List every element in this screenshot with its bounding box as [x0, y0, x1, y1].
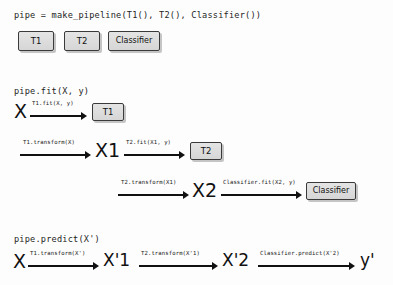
- fit-row3-arrow-1-label: T2.transform(X1): [121, 180, 176, 186]
- fit-row3-mid-symbol: X2: [192, 181, 217, 200]
- fit-heading: pipe.fit(X, y): [14, 86, 89, 96]
- fit-row3-arrow-1: [118, 190, 190, 199]
- fit-row3-target-box-label: Classifier: [313, 187, 350, 195]
- fit-row3-arrow-2-label: Classifier.fit(X2, y): [223, 180, 296, 186]
- fit-row1-arrow: [30, 111, 88, 120]
- predict-result-symbol-1: X'1: [103, 252, 130, 269]
- fit-row1-target-box: T1: [92, 103, 124, 121]
- predict-arrow-1-label: T1.transform(X'): [30, 251, 85, 257]
- pipeline-heading: pipe = make_pipeline(T1(), T2(), Classif…: [14, 10, 261, 20]
- predict-arrow-2: [139, 261, 219, 270]
- figure-canvas: pipe = make_pipeline(T1(), T2(), Classif…: [0, 0, 393, 285]
- fit-row1-target-box-label: T1: [103, 108, 114, 117]
- predict-arrow-1: [28, 261, 100, 270]
- fit-row2-mid-symbol: X1: [95, 141, 120, 160]
- predict-arrow-3-label: Classifier.predict(X'2): [260, 251, 340, 257]
- pipeline-box-classifier: Classifier: [108, 31, 160, 51]
- predict-input-symbol: X: [13, 252, 26, 271]
- pipeline-box-t1: T1: [18, 31, 54, 51]
- pipeline-box-t2-label: T2: [77, 37, 88, 46]
- predict-arrow-3: [258, 261, 356, 270]
- fit-row1-input-symbol: X: [14, 102, 27, 121]
- fit-row2-arrow-2: [124, 150, 186, 159]
- fit-row3-target-box: Classifier: [306, 182, 356, 200]
- fit-row2-arrow-1: [20, 150, 92, 159]
- predict-result-symbol-2: X'2: [222, 252, 249, 269]
- predict-arrow-2-label: T2.transform(X'1): [141, 251, 200, 257]
- pipeline-box-t1-label: T1: [31, 37, 42, 46]
- predict-heading: pipe.predict(X'): [14, 234, 100, 244]
- fit-row2-arrow-2-label: T2.fit(X1, y): [126, 140, 171, 146]
- fit-row2-arrow-1-label: T1.transform(X): [23, 140, 75, 146]
- fit-row2-target-box-label: T2: [201, 147, 212, 156]
- fit-row2-target-box: T2: [190, 142, 222, 160]
- predict-result-symbol-3: y': [360, 252, 375, 269]
- pipeline-box-classifier-label: Classifier: [116, 37, 153, 45]
- fit-row1-arrow-label: T1.fit(X, y): [32, 101, 74, 107]
- fit-row3-arrow-2: [221, 190, 303, 199]
- pipeline-box-t2: T2: [64, 31, 100, 51]
